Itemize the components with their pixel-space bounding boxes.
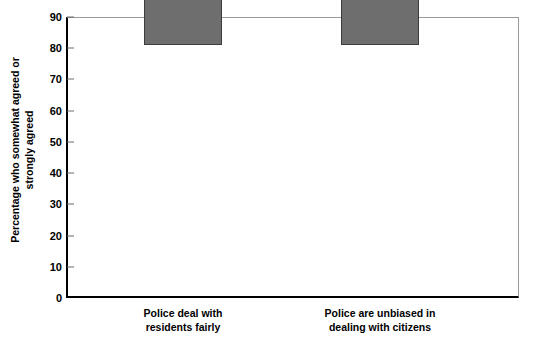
x-axis-category-label: Police are unbiased indealing with citiz…: [325, 306, 436, 334]
x-axis-category-label-line: residents fairly: [144, 320, 223, 334]
x-axis-category-label: Police deal withresidents fairly: [144, 306, 223, 334]
x-axis-category-label-line: Police are unbiased in: [325, 306, 436, 320]
x-axis-category-label-line: dealing with citizens: [325, 320, 436, 334]
bars-layer: 85Police deal withresidents fairly64Poli…: [0, 0, 534, 343]
bar[interactable]: 64: [341, 0, 419, 45]
bar-chart: Percentage who somewhat agreed or strong…: [0, 0, 534, 343]
x-axis-category-label-line: Police deal with: [144, 306, 223, 320]
bar[interactable]: 85: [144, 0, 222, 45]
